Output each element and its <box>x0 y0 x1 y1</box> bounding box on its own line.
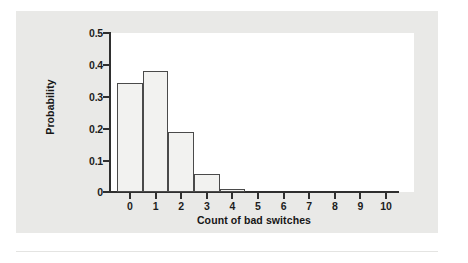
chart-page: 0.5 0.4 0.3 0.2 0.1 0 012345678910 Count… <box>0 0 468 263</box>
x-axis-tick-label: 0 <box>118 200 142 212</box>
x-axis-tick-label: 1 <box>144 200 168 212</box>
footer-rule <box>16 251 438 252</box>
y-axis-tick-label-wrap: 0 <box>63 186 103 198</box>
x-axis-tick <box>334 193 336 199</box>
x-axis-title: Count of bad switches <box>109 214 399 226</box>
x-axis-tick <box>129 193 131 199</box>
bar <box>117 83 143 192</box>
x-axis-tick <box>206 193 208 199</box>
bar <box>194 174 220 192</box>
y-axis-tick-label: 0.1 <box>69 155 103 167</box>
bar <box>220 189 246 192</box>
x-axis-tick <box>359 193 361 199</box>
x-axis-tick-label: 2 <box>169 200 193 212</box>
x-axis-tick <box>155 193 157 199</box>
x-axis-tick-label: 3 <box>195 200 219 212</box>
bar <box>143 71 169 192</box>
y-axis-tick <box>103 191 109 193</box>
y-axis-tick-label: 0.2 <box>69 123 103 135</box>
y-axis-line <box>109 32 111 193</box>
x-axis-tick-label: 6 <box>272 200 296 212</box>
bar <box>168 132 194 192</box>
y-axis-tick <box>103 128 109 130</box>
y-axis-tick <box>103 96 109 98</box>
y-axis-tick-label-wrap: 0.3 <box>63 91 103 103</box>
x-axis-tick-label: 8 <box>323 200 347 212</box>
y-axis-tick-label: 0.4 <box>69 59 103 71</box>
x-axis-tick <box>385 193 387 199</box>
x-axis-tick-label: 9 <box>348 200 372 212</box>
x-axis-tick-label: 10 <box>374 200 398 212</box>
y-axis-tick-label: 0.3 <box>69 91 103 103</box>
y-axis-tick <box>103 64 109 66</box>
x-axis-tick-label: 4 <box>220 200 244 212</box>
y-axis-tick-label-wrap: 0.4 <box>63 59 103 71</box>
y-axis-tick-label-wrap: 0.5 <box>63 27 103 39</box>
y-axis-tick-label-wrap: 0.2 <box>63 123 103 135</box>
y-axis-tick <box>103 160 109 162</box>
x-axis-tick-label: 5 <box>246 200 270 212</box>
y-axis-tick-label-wrap: 0.1 <box>63 155 103 167</box>
x-axis-tick <box>231 193 233 199</box>
y-axis-tick-label: 0 <box>69 186 103 198</box>
y-axis-title: Probability <box>44 47 56 167</box>
x-axis-tick <box>257 193 259 199</box>
x-axis-tick <box>283 193 285 199</box>
x-axis-tick-label: 7 <box>297 200 321 212</box>
y-axis-tick-label: 0.5 <box>69 27 103 39</box>
y-axis-tick <box>103 32 109 34</box>
x-axis-tick <box>180 193 182 199</box>
x-axis-tick <box>308 193 310 199</box>
